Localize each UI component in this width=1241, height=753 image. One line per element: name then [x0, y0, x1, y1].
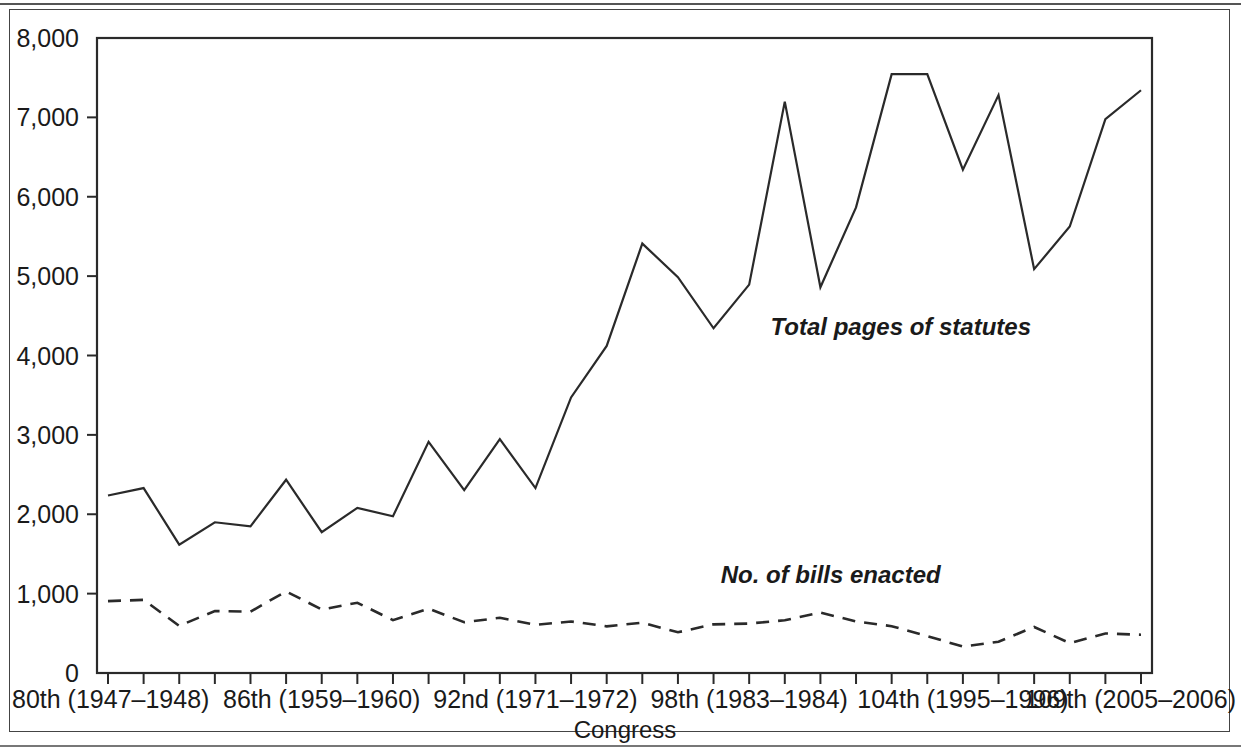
x-axis-tick-label: 98th (1983–1984): [650, 685, 847, 713]
x-axis-ticks: [108, 673, 1141, 684]
series-annotations: Total pages of statutesNo. of bills enac…: [721, 313, 1031, 588]
y-axis-tick-label: 8,000: [16, 24, 79, 52]
x-axis-title: Congress: [574, 716, 677, 743]
y-axis-tick-labels: 01,0002,0003,0004,0005,0006,0007,0008,00…: [16, 24, 79, 687]
x-axis-tick-label: 109th (2005–2006): [1025, 685, 1236, 713]
y-axis-tick-label: 6,000: [16, 183, 79, 211]
x-axis-tick-label: 80th (1947–1948): [12, 685, 209, 713]
figure-container: 01,0002,0003,0004,0005,0006,0007,0008,00…: [0, 0, 1241, 753]
series-line-total-pages: [108, 74, 1141, 544]
y-axis-tick-label: 2,000: [16, 500, 79, 528]
y-axis-ticks: [87, 117, 97, 593]
y-axis-tick-label: 7,000: [16, 103, 79, 131]
data-series-group: [108, 74, 1141, 646]
y-axis-tick-label: 3,000: [16, 421, 79, 449]
plot-frame: [97, 38, 1152, 673]
y-axis-tick-label: 1,000: [16, 580, 79, 608]
annotation-total-pages-of-statutes: Total pages of statutes: [771, 313, 1031, 340]
plot-area-border: [97, 38, 1152, 673]
x-axis-tick-label: 92nd (1971–1972): [433, 685, 637, 713]
annotation-no-of-bills-enacted: No. of bills enacted: [721, 561, 942, 588]
y-axis-tick-label: 4,000: [16, 342, 79, 370]
y-axis-tick-label: 0: [65, 659, 79, 687]
series-line-bills-enacted: [108, 591, 1141, 646]
x-axis-tick-labels: 80th (1947–1948)86th (1959–1960)92nd (19…: [12, 685, 1236, 713]
y-axis-tick-label: 5,000: [16, 262, 79, 290]
line-chart: 01,0002,0003,0004,0005,0006,0007,0008,00…: [0, 0, 1241, 753]
x-axis-tick-label: 86th (1959–1960): [223, 685, 420, 713]
